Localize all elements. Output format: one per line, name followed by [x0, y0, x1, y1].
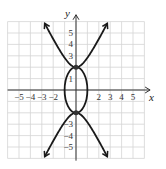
y-tick-label: 3	[69, 51, 74, 61]
y-axis-label: y	[64, 7, 70, 19]
x-tick-label: −3	[37, 92, 47, 102]
y-tick-label: −4	[63, 131, 73, 141]
x-tick-label: 2	[97, 92, 102, 102]
x-tick-label: 5	[131, 92, 136, 102]
axes	[8, 15, 151, 161]
x-tick-label: 3	[108, 92, 113, 102]
y-tick-label: −5	[63, 142, 73, 152]
x-tick-label: 4	[119, 92, 124, 102]
y-tick-label: 5	[69, 28, 74, 38]
x-tick-label: −4	[26, 92, 36, 102]
graph: −5−4−3−223455431−3−4−5xy	[0, 0, 166, 169]
intersection-point	[74, 65, 79, 70]
x-tick-label: −2	[48, 92, 58, 102]
x-axis-label: x	[148, 91, 154, 103]
y-tick-label: 4	[69, 39, 74, 49]
y-tick-label: 1	[69, 74, 74, 84]
y-tick-label: −3	[63, 119, 73, 129]
x-tick-label: −5	[14, 92, 24, 102]
intersection-point	[74, 110, 79, 115]
